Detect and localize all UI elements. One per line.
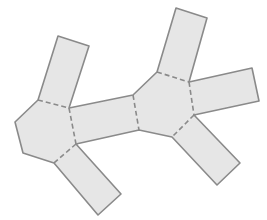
middle-rect-face bbox=[69, 95, 139, 144]
net-diagram bbox=[0, 0, 267, 220]
net-diagram-svg bbox=[0, 0, 267, 220]
faces-group bbox=[15, 8, 259, 215]
